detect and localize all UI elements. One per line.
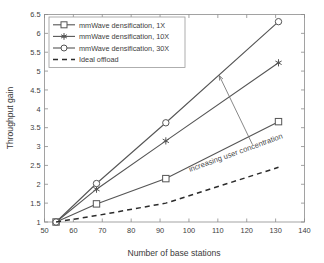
y-tick-label-2.5: 2.5 <box>30 161 40 170</box>
y-tick-label-6.5: 6.5 <box>30 10 40 19</box>
y-tick-label-3.5: 3.5 <box>30 123 40 132</box>
x-tick-label-110: 110 <box>212 226 224 235</box>
x-tick-label-90: 90 <box>156 226 164 235</box>
y-tick-label-1.5: 1.5 <box>30 199 40 208</box>
y-axis-tick-labels: 11.522.533.544.555.566.5 <box>30 10 40 227</box>
annotation-text: increasing user concentration <box>188 131 284 173</box>
y-tick-label-4.5: 4.5 <box>30 86 40 95</box>
x-tick-label-70: 70 <box>98 226 106 235</box>
y-tick-label-6: 6 <box>36 29 40 38</box>
x-tick-label-60: 60 <box>69 226 77 235</box>
legend-label-1: mmWave densification, 10X <box>79 32 169 41</box>
y-axis-title: Throughput gain <box>5 86 15 149</box>
y-tick-label-5: 5 <box>36 67 40 76</box>
x-tick-label-80: 80 <box>127 226 135 235</box>
chart-canvas: 5060708090100110120130140 11.522.533.544… <box>0 0 324 263</box>
x-tick-label-120: 120 <box>241 226 253 235</box>
x-axis-title: Number of base stations <box>127 248 220 258</box>
y-tick-label-1: 1 <box>36 218 40 227</box>
x-tick-label-50: 50 <box>40 226 48 235</box>
legend-label-3: Ideal offload <box>79 55 119 64</box>
chart-figure: 5060708090100110120130140 11.522.533.544… <box>0 0 324 263</box>
chart-legend: mmWave densification, 1XmmWave densifica… <box>49 17 185 67</box>
legend-label-0: mmWave densification, 1X <box>79 21 165 30</box>
y-tick-label-5.5: 5.5 <box>30 48 40 57</box>
series-1 <box>53 59 282 225</box>
legend-label-2: mmWave densification, 30X <box>79 44 169 53</box>
annotation-arrow <box>219 76 252 145</box>
x-tick-label-140: 140 <box>298 226 310 235</box>
y-tick-label-4: 4 <box>36 105 40 114</box>
y-tick-label-3: 3 <box>36 142 40 151</box>
x-axis-tick-labels: 5060708090100110120130140 <box>40 226 310 235</box>
x-tick-label-100: 100 <box>183 226 195 235</box>
x-tick-label-130: 130 <box>269 226 281 235</box>
y-tick-label-2: 2 <box>36 180 40 189</box>
